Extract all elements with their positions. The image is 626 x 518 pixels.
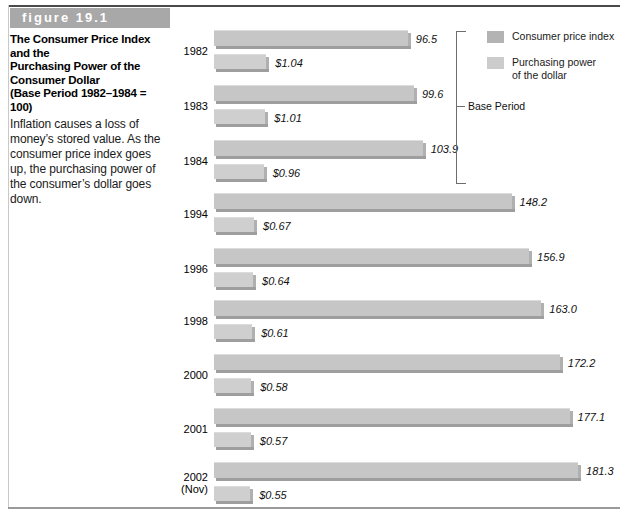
bar-value-dollar-1984: $0.96 bbox=[273, 167, 301, 179]
bar-cpi-1982 bbox=[214, 30, 408, 46]
category-label-line-1: 1982 bbox=[148, 45, 208, 57]
category-label-1983: 1983 bbox=[148, 100, 208, 112]
bar-value-cpi-1994: 148.2 bbox=[520, 196, 548, 208]
bar-dollar-1983 bbox=[214, 109, 265, 124]
bar-value-dollar-2001: $0.57 bbox=[260, 435, 288, 447]
bar-value-cpi-2002-nov-: 181.3 bbox=[586, 465, 614, 477]
bar-dollar-1994 bbox=[214, 217, 254, 232]
bar-dollar-2002-nov- bbox=[214, 486, 250, 501]
category-label-line-1: 1994 bbox=[148, 208, 208, 220]
legend-label-2: Purchasing powerof the dollar bbox=[512, 56, 622, 81]
category-label-line-1: 2001 bbox=[148, 423, 208, 435]
bar-dollar-2000 bbox=[214, 378, 251, 393]
legend-label-line-1: Purchasing power bbox=[512, 56, 622, 69]
category-label-1984: 1984 bbox=[148, 155, 208, 167]
legend-label-line-2: of the dollar bbox=[512, 69, 622, 82]
bar-value-cpi-2001: 177.1 bbox=[578, 411, 606, 423]
base-period-label: Base Period bbox=[468, 100, 525, 112]
legend-label-line-1: Consumer price index bbox=[512, 30, 622, 43]
category-label-2000: 2000 bbox=[148, 369, 208, 381]
bar-dollar-1984 bbox=[214, 164, 264, 179]
category-label-2001: 2001 bbox=[148, 423, 208, 435]
category-label-1982: 1982 bbox=[148, 45, 208, 57]
base-period-bracket bbox=[456, 31, 466, 184]
bar-cpi-2000 bbox=[214, 354, 560, 370]
bar-dollar-1996 bbox=[214, 272, 253, 287]
category-label-line-1: 1984 bbox=[148, 155, 208, 167]
figure-container: figure 19.1 The Consumer Price Index and… bbox=[0, 0, 626, 518]
legend-swatch-icon-2 bbox=[487, 57, 504, 69]
bar-cpi-1994 bbox=[214, 193, 512, 209]
bar-value-dollar-1998: $0.61 bbox=[261, 327, 289, 339]
category-label-line-1: 2002 bbox=[148, 471, 208, 483]
bar-cpi-1996 bbox=[214, 248, 529, 264]
bar-cpi-2001 bbox=[214, 408, 570, 424]
category-label-line-2: (Nov) bbox=[148, 483, 208, 495]
bar-cpi-1998 bbox=[214, 300, 541, 316]
bar-value-dollar-1982: $1.04 bbox=[275, 57, 303, 69]
legend-label-1: Consumer price index bbox=[512, 30, 622, 43]
bar-dollar-1998 bbox=[214, 324, 252, 339]
category-label-line-1: 1983 bbox=[148, 100, 208, 112]
bar-value-cpi-1983: 99.6 bbox=[422, 88, 443, 100]
category-label-line-1: 1998 bbox=[148, 315, 208, 327]
category-label-line-1: 2000 bbox=[148, 369, 208, 381]
bar-cpi-1984 bbox=[214, 140, 423, 156]
bar-dollar-2001 bbox=[214, 432, 251, 447]
bar-value-cpi-1996: 156.9 bbox=[537, 251, 565, 263]
bar-value-cpi-2000: 172.2 bbox=[568, 357, 596, 369]
category-label-1996: 1996 bbox=[148, 263, 208, 275]
bar-value-cpi-1982: 96.5 bbox=[416, 33, 437, 45]
base-period-bracket-tick bbox=[456, 106, 465, 107]
bar-cpi-2002-nov- bbox=[214, 462, 578, 478]
bar-value-dollar-2000: $0.58 bbox=[260, 381, 288, 393]
bar-value-dollar-1983: $1.01 bbox=[274, 112, 302, 124]
legend-swatch-icon-1 bbox=[487, 31, 504, 43]
category-label-line-1: 1996 bbox=[148, 263, 208, 275]
category-label-2002-nov-: 2002(Nov) bbox=[148, 471, 208, 495]
legend-item-1: Consumer price index bbox=[487, 30, 622, 47]
chart-legend: Consumer price indexPurchasing powerof t… bbox=[487, 30, 622, 90]
bar-cpi-1983 bbox=[214, 85, 414, 101]
bar-value-cpi-1984: 103.9 bbox=[431, 143, 459, 155]
bar-value-dollar-1996: $0.64 bbox=[262, 275, 290, 287]
bar-value-dollar-2002-nov-: $0.55 bbox=[259, 489, 287, 501]
legend-item-2: Purchasing powerof the dollar bbox=[487, 56, 622, 81]
bar-dollar-1982 bbox=[214, 54, 266, 69]
bar-value-cpi-1998: 163.0 bbox=[549, 303, 577, 315]
category-label-1998: 1998 bbox=[148, 315, 208, 327]
bar-value-dollar-1994: $0.67 bbox=[263, 220, 291, 232]
category-label-1994: 1994 bbox=[148, 208, 208, 220]
